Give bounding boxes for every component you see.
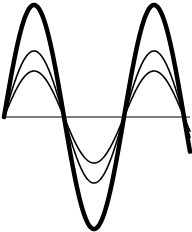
waveform-diagram: [0, 0, 192, 232]
